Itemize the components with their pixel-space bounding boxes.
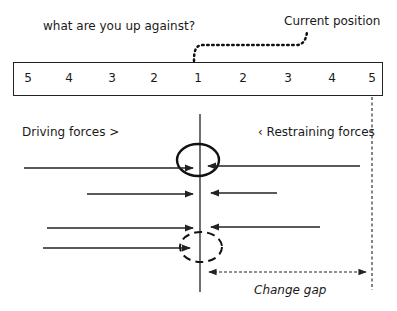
current-state-circle bbox=[177, 144, 219, 176]
desired-state-circle bbox=[180, 232, 222, 262]
force-field-diagram bbox=[0, 0, 397, 311]
current-position-leader bbox=[194, 32, 307, 61]
